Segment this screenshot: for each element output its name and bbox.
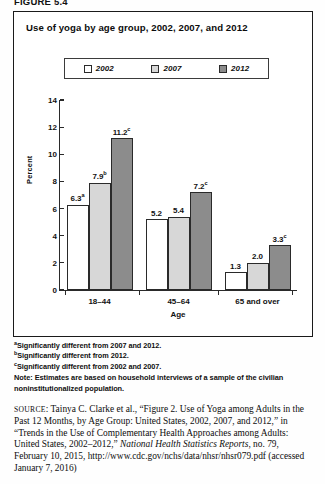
x-axis-label: Age [59,310,297,319]
bar-group-18-44: 6.3a 7.9b 11.2c 18–44 [60,100,139,290]
bar-groups: 6.3a 7.9b 11.2c 18–44 5.2 [60,100,297,290]
bar-2002-65-and-over: 1.3 [225,272,247,290]
y-axis-label: Percent [25,155,34,184]
legend-swatch-2007 [151,65,159,73]
figure-number: FIGURE 5.4 [14,0,68,5]
x-category-label-45-64: 45–64 [139,297,218,306]
x-category-label-18-44: 18–44 [60,297,139,306]
plot-frame: 0 2 4 6 8 10 12 14 6.3a [59,100,297,291]
bar-value-label: 3.3c [273,235,287,244]
chart-plot-area: Percent 0 2 4 6 8 10 12 14 [14,88,314,338]
legend-label-2012: 2012 [231,64,249,73]
bar-2007-18-44: 7.9b [89,183,111,290]
figure-page: FIGURE 5.4 Use of yoga by age group, 200… [0,0,325,484]
footnote-a: aSignificantly different from 2007 and 2… [14,341,314,351]
bar-value-label: 5.4 [173,206,184,215]
bar-group-45-64: 5.2 5.4 7.2c 45–64 [139,100,218,290]
legend-label-2007: 2007 [163,64,181,73]
x-tick-separator [139,290,140,295]
footnote-c: cSignificantly different from 2002 and 2… [14,362,314,372]
x-tick-separator [65,290,66,295]
bar-group-65-and-over: 1.3 2.0 3.3c 65 and over [218,100,297,290]
x-tick-separator [218,290,219,295]
legend-label-2002: 2002 [96,64,114,73]
bar-value-label: 1.3 [230,262,241,271]
x-tick-separator [292,290,293,295]
legend-swatch-2002 [84,65,92,73]
footnote-b: bSignificantly different from 2012. [14,351,314,361]
bar-2012-65-and-over: 3.3c [269,245,291,290]
chart-legend: 2002 2007 2012 [64,58,269,79]
bar-value-label: 2.0 [252,252,263,261]
legend-swatch-2012 [219,65,227,73]
legend-item-2007: 2007 [151,64,181,73]
figure-title: Use of yoga by age group, 2002, 2007, an… [26,22,248,33]
footnotes-block: aSignificantly different from 2007 and 2… [14,341,314,394]
bar-2007-65-and-over: 2.0 [247,263,269,290]
bar-value-label: 6.3a [71,194,85,203]
bar-2002-18-44: 6.3a [67,205,89,291]
figure-frame: Use of yoga by age group, 2002, 2007, an… [13,11,313,337]
legend-item-2012: 2012 [219,64,249,73]
bar-2007-45-64: 5.4 [168,217,190,290]
source-label: SOURCE [14,405,46,414]
source-block: SOURCE: Tainya C. Clarke et al., “Figure… [14,404,312,475]
bar-value-label: 5.2 [151,209,162,218]
bar-value-label: 11.2c [113,128,131,137]
bar-value-label: 7.9b [92,172,106,181]
x-category-label-65-and-over: 65 and over [218,297,297,306]
source-italic-title: National Health Statistics Reports [120,439,248,449]
bar-2012-45-64: 7.2c [190,192,212,290]
bar-2002-45-64: 5.2 [146,219,168,290]
bar-2012-18-44: 11.2c [111,138,133,290]
note-text: Note: Estimates are based on household i… [14,373,314,394]
legend-item-2002: 2002 [84,64,114,73]
bar-value-label: 7.2c [194,182,208,191]
